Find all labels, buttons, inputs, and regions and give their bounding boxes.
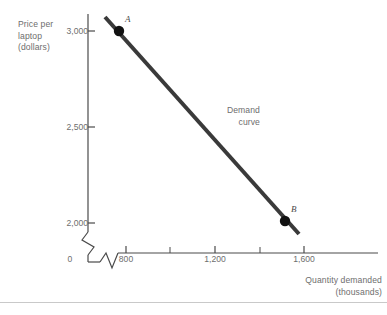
y-tick-label-3000: 3,000 [48,26,88,36]
x-axis-title-line-2: (thousands) [252,287,382,299]
y-axis-title-line-3: (dollars) [18,42,53,54]
data-point-a-label: A [125,14,131,24]
bottom-divider-rule [0,302,387,303]
y-axis-break-zigzag [82,232,94,255]
data-point-b [280,216,290,226]
data-point-b-label: B [291,204,297,214]
demand-curve-figure: Price per laptop (dollars) 3,000 2,500 2… [0,0,387,315]
y-axis-title: Price per laptop (dollars) [18,19,53,54]
y-tick-label-2000: 2,000 [48,218,88,228]
x-axis-title: Quantity demanded (thousands) [252,275,382,298]
x-tick-label-800: 800 [106,254,146,264]
x-tick-label-1600: 1,600 [284,254,324,264]
demand-curve-label: Demand curve [200,105,260,128]
x-tick-label-1200: 1,200 [195,254,235,264]
demand-curve-label-line-2: curve [200,117,260,129]
x-axis-title-line-1: Quantity demanded [252,275,382,287]
data-point-a [114,26,124,36]
demand-curve-label-line-1: Demand [200,105,260,117]
x-axis-origin-label: 0 [50,254,90,264]
chart-plot-area [0,0,387,315]
y-tick-label-2500: 2,500 [48,122,88,132]
